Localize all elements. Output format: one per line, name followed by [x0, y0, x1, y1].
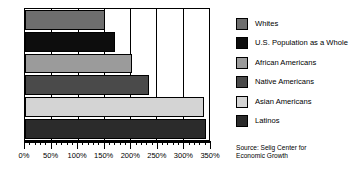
legend-swatch [236, 37, 248, 49]
legend-swatch [236, 18, 248, 30]
x-axis-tick-label: 100% [68, 151, 87, 160]
x-axis-minor-tick [29, 141, 30, 145]
x-axis-tick-label: 200% [121, 151, 140, 160]
x-axis-minor-tick [109, 141, 110, 145]
x-axis-minor-tick [72, 141, 73, 145]
bar-row [25, 9, 209, 31]
legend-item-label: African Americans [255, 59, 316, 67]
bar [25, 75, 149, 95]
x-axis-tick-label: 0% [19, 151, 30, 160]
bar [25, 119, 206, 139]
x-axis-tick-label: 150% [94, 151, 113, 160]
x-axis-tick-label: 50% [43, 151, 58, 160]
source-line-1: Source: Selig Center for [236, 144, 348, 152]
x-axis-minor-tick [141, 141, 142, 145]
x-axis [24, 141, 210, 150]
legend-swatch [236, 57, 248, 69]
legend-item[interactable]: Whites [236, 14, 348, 34]
x-axis-minor-tick [199, 141, 200, 145]
legend-item-label: Whites [255, 20, 278, 28]
bar-row [25, 31, 209, 53]
bar [25, 10, 105, 30]
x-axis-tick-labels: 0%50%100%150%200%250%300%350% [10, 151, 224, 165]
legend-swatch [236, 76, 248, 88]
legend-item[interactable]: Latinos [236, 112, 348, 132]
x-axis-minor-tick [120, 141, 121, 145]
chart-legend: WhitesU.S. Population as a WholeAfrican … [236, 14, 348, 131]
bar-row [25, 118, 209, 140]
x-axis-minor-tick [136, 141, 137, 145]
legend-item[interactable]: Native Americans [236, 73, 348, 93]
x-axis-minor-tick [67, 141, 68, 145]
legend-item-label: Asian Americans [255, 98, 312, 106]
x-axis-minor-tick [152, 141, 153, 145]
x-axis-tick-label: 350% [200, 151, 219, 160]
x-axis-tick [77, 141, 78, 149]
x-axis-minor-tick [162, 141, 163, 145]
bar-row [25, 74, 209, 96]
legend-item-label: U.S. Population as a Whole [255, 39, 348, 47]
bar-row [25, 53, 209, 75]
x-axis-minor-tick [178, 141, 179, 145]
x-axis-minor-tick [61, 141, 62, 145]
x-axis-minor-tick [45, 141, 46, 145]
x-axis-minor-tick [189, 141, 190, 145]
x-axis-tick [130, 141, 131, 149]
legend-swatch [236, 115, 248, 127]
x-axis-minor-tick [93, 141, 94, 145]
bar [25, 32, 115, 52]
bar-row [25, 96, 209, 118]
x-axis-minor-tick [40, 141, 41, 145]
x-axis-minor-tick [98, 141, 99, 145]
x-axis-tick [24, 141, 25, 149]
x-axis-minor-tick [146, 141, 147, 145]
x-axis-tick [210, 141, 211, 149]
x-axis-tick-label: 250% [147, 151, 166, 160]
source-note: Source: Selig Center for Economic Growth [236, 144, 348, 160]
plot-area [24, 8, 210, 141]
x-axis-minor-tick [167, 141, 168, 145]
x-axis-minor-tick [88, 141, 89, 145]
x-axis-minor-tick [114, 141, 115, 145]
x-axis-minor-tick [35, 141, 36, 145]
bar [25, 97, 204, 117]
x-axis-minor-tick [173, 141, 174, 145]
x-axis-minor-tick [82, 141, 83, 145]
x-axis-minor-tick [194, 141, 195, 145]
legend-item[interactable]: Asian Americans [236, 92, 348, 112]
x-axis-minor-tick [125, 141, 126, 145]
source-line-2: Economic Growth [236, 152, 348, 160]
legend-item[interactable]: U.S. Population as a Whole [236, 34, 348, 54]
x-axis-tick [104, 141, 105, 149]
bar [25, 54, 132, 74]
x-axis-tick [157, 141, 158, 149]
x-axis-minor-tick [205, 141, 206, 145]
legend-item-label: Latinos [255, 117, 280, 125]
x-axis-line [24, 141, 210, 143]
x-axis-tick-label: 300% [174, 151, 193, 160]
x-axis-tick [183, 141, 184, 149]
legend-swatch [236, 96, 248, 108]
legend-item[interactable]: African Americans [236, 53, 348, 73]
x-axis-tick [51, 141, 52, 149]
bar-chart-figure: 0%50%100%150%200%250%300%350% WhitesU.S.… [0, 0, 351, 182]
legend-item-label: Native Americans [255, 78, 314, 86]
bar-series [25, 9, 209, 140]
x-axis-minor-tick [56, 141, 57, 145]
